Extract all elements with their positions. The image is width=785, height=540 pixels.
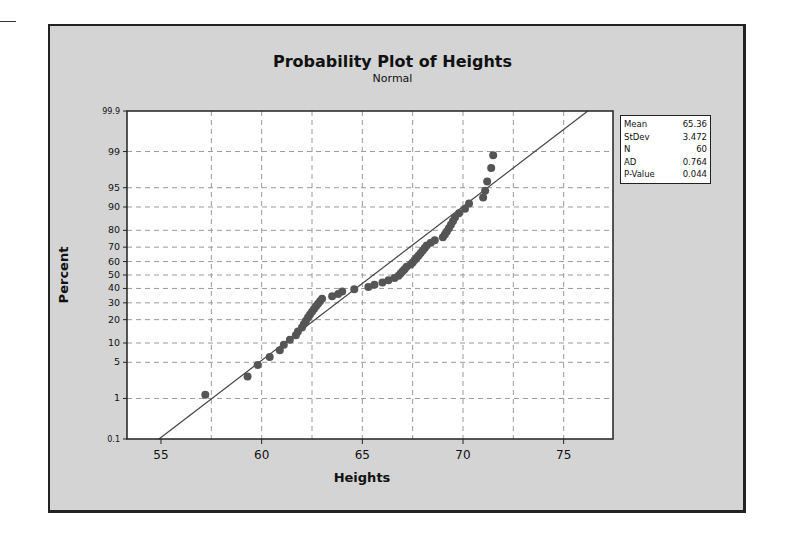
stat-n: N60 [624,143,707,156]
y-tick-label: 20 [108,314,120,325]
y-tick-label: 80 [108,224,120,235]
y-tick-label: 50 [108,269,120,280]
data-point [350,285,358,293]
y-tick-label: 40 [108,282,120,293]
x-tick-label: 75 [556,448,571,462]
stat-stdev: StDev3.472 [624,131,707,144]
y-tick-label: 99 [108,146,120,157]
data-point [370,281,378,289]
x-tick-label: 70 [455,448,470,462]
y-tick-label: 1 [114,392,120,403]
stat-pvalue: P-Value0.044 [624,168,707,181]
y-tick-label: 90 [108,201,120,212]
data-point [431,236,439,244]
data-point [487,164,495,172]
data-point [489,151,497,159]
x-axis-ticks: 5560657075 [153,439,571,462]
data-point [201,391,209,399]
y-axis-label: Percent [56,247,71,304]
x-axis-label: Heights [334,470,391,485]
y-tick-label: 10 [108,337,120,348]
stat-ad: AD0.764 [624,156,707,169]
data-point [483,177,491,185]
statistics-legend: Mean65.36 StDev3.472 N60 AD0.764 P-Value… [620,115,711,184]
y-tick-label: 30 [108,297,120,308]
data-point [318,295,326,303]
data-point [244,372,252,380]
stat-mean: Mean65.36 [624,118,707,131]
y-tick-label: 60 [108,256,120,267]
x-tick-label: 60 [254,448,269,462]
y-tick-label: 0.1 [107,435,120,444]
y-tick-label: 95 [108,182,120,193]
x-tick-label: 55 [153,448,168,462]
y-tick-label: 70 [108,241,120,252]
data-point [465,200,473,208]
probability-plot: 0.115102030405060708090959999.9 55606570… [0,0,785,540]
data-point [481,187,489,195]
x-tick-label: 65 [355,448,370,462]
data-point [479,193,487,201]
data-point [266,353,274,361]
data-point [254,361,262,369]
y-axis-ticks: 0.115102030405060708090959999.9 [102,107,127,444]
y-tick-label: 5 [114,356,120,367]
y-tick-label: 99.9 [102,107,120,116]
data-point [338,287,346,295]
